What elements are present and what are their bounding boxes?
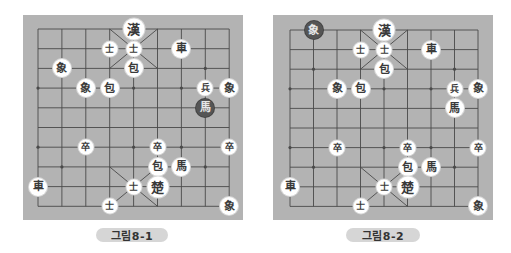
- piece-c8-r3[interactable]: 象: [469, 80, 487, 98]
- figure-caption-1: 그림8-1: [96, 228, 168, 242]
- piece-c3-r1[interactable]: 士: [102, 41, 117, 56]
- piece-c2-r6[interactable]: 卒: [330, 140, 345, 155]
- piece-c2-r3[interactable]: 象: [77, 79, 95, 97]
- piece-c7-r3[interactable]: 兵: [198, 81, 213, 96]
- piece-c5-r7[interactable]: 包: [399, 158, 417, 176]
- piece-c3-r3[interactable]: 包: [101, 79, 119, 97]
- piece-c2-r6[interactable]: 卒: [78, 140, 93, 155]
- piece-c1-r2[interactable]: 象: [53, 59, 71, 77]
- piece-c8-r9[interactable]: 象: [220, 197, 238, 215]
- piece-c3-r1[interactable]: 士: [353, 42, 368, 57]
- piece-c5-r8[interactable]: 楚: [147, 176, 168, 197]
- piece-c4-r2[interactable]: 包: [375, 60, 393, 78]
- piece-c6-r1[interactable]: 車: [422, 41, 440, 59]
- piece-c5-r8[interactable]: 楚: [397, 176, 418, 197]
- piece-c4-r1[interactable]: 士: [377, 42, 392, 57]
- piece-c3-r9[interactable]: 士: [102, 199, 117, 214]
- piece-c5-r7[interactable]: 包: [149, 158, 167, 176]
- piece-c8-r6[interactable]: 卒: [471, 140, 486, 155]
- piece-c8-r9[interactable]: 象: [469, 197, 487, 215]
- piece-c3-r9[interactable]: 士: [353, 199, 368, 214]
- figure-caption-2: 그림8-2: [346, 228, 420, 242]
- piece-c6-r1[interactable]: 車: [172, 40, 190, 58]
- piece-c4-r1[interactable]: 士: [126, 41, 141, 56]
- piece-c4-r2[interactable]: 包: [125, 59, 143, 77]
- piece-c4-r8[interactable]: 士: [377, 179, 392, 194]
- piece-c6-r7[interactable]: 馬: [422, 158, 440, 176]
- piece-c8-r3[interactable]: 象: [220, 79, 238, 97]
- janggi-board-1: 漢士士車象包象包兵象馬卒卒卒包馬車士楚士象: [23, 15, 243, 220]
- piece-c7-r4[interactable]: 馬: [446, 99, 464, 117]
- piece-c4-r0[interactable]: 漢: [374, 20, 395, 41]
- piece-c0-r8[interactable]: 車: [281, 178, 299, 196]
- piece-c5-r6[interactable]: 卒: [400, 140, 415, 155]
- piece-c8-r6[interactable]: 卒: [222, 140, 237, 155]
- piece-c2-r3[interactable]: 象: [328, 80, 346, 98]
- piece-c5-r6[interactable]: 卒: [150, 140, 165, 155]
- piece-c4-r8[interactable]: 士: [126, 179, 141, 194]
- piece-selected-c1-r0[interactable]: 象: [305, 21, 323, 39]
- janggi-board-2: 象漢士士車包象包兵象馬卒卒卒包馬車士楚士象: [273, 15, 493, 220]
- piece-c7-r3[interactable]: 兵: [447, 81, 462, 96]
- piece-c3-r3[interactable]: 包: [352, 80, 370, 98]
- piece-selected-c7-r4[interactable]: 馬: [196, 99, 214, 117]
- piece-c4-r0[interactable]: 漢: [123, 19, 144, 40]
- piece-c0-r8[interactable]: 車: [29, 178, 47, 196]
- piece-c6-r7[interactable]: 馬: [172, 158, 190, 176]
